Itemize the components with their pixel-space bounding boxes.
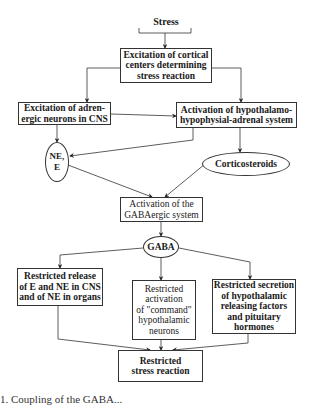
node-gaba: GABA: [143, 236, 179, 258]
node-ne-e: NE, E: [45, 142, 69, 182]
node-restricted-secretion: Restricted secretion of hypothalamic rel…: [212, 279, 296, 334]
stress-bracket: [139, 28, 191, 33]
node-stress: Stress: [146, 16, 186, 27]
node-adrenergic: Excitation of adren- ergic neurons in CN…: [18, 102, 111, 125]
node-restricted-release: Restricted release of E and NE in CNS an…: [17, 268, 103, 306]
node-restricted-stress: Restricted stress reaction: [118, 350, 203, 382]
node-restricted-activation: Restricted activation of "command" hypot…: [132, 280, 196, 340]
figure-caption: 1. Coupling of the GABA...: [0, 393, 122, 405]
node-gabaergic: Activation of the GABAergic system: [120, 197, 203, 222]
node-corticosteroids: Corticosteroids: [202, 152, 290, 176]
node-hpa: Activation of hypothalamo- hypophysial-a…: [176, 102, 297, 128]
node-cortical: Excitation of cortical centers determini…: [120, 48, 212, 83]
